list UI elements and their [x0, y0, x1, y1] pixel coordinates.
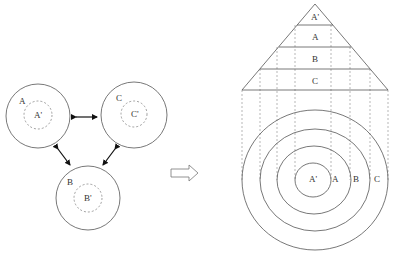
double-arrow-c-b-icon: [103, 149, 115, 165]
label-c: C: [116, 93, 122, 103]
double-arrow-a-b-icon: [58, 149, 70, 165]
label-b-prime: B': [84, 193, 92, 203]
label-b: B: [67, 177, 73, 187]
label-a: A: [19, 96, 26, 106]
ring-label-c: C: [374, 174, 380, 184]
pyramid-layer-a: A: [312, 32, 319, 42]
pyramid-layer-b: B: [312, 54, 318, 64]
pyramid: A' A B C: [242, 4, 388, 90]
hollow-right-arrow-icon: [171, 165, 198, 181]
label-a-prime: A': [34, 110, 42, 120]
ring-label-a: A: [332, 174, 339, 184]
pyramid-layer-c: C: [312, 76, 318, 86]
circle-group-a: A A': [6, 84, 70, 148]
diagram-canvas: A A' C C' B B' A' A B C: [0, 0, 394, 254]
label-c-prime: C': [131, 109, 139, 119]
ring-label-a-prime: A': [309, 174, 317, 184]
circle-group-c: C C': [101, 82, 167, 148]
ring-label-b: B: [353, 174, 359, 184]
diagram-svg: A A' C C' B B' A' A B C: [0, 0, 394, 254]
pyramid-layer-a-prime: A': [311, 12, 319, 22]
circle-group-b: B B': [56, 166, 120, 230]
